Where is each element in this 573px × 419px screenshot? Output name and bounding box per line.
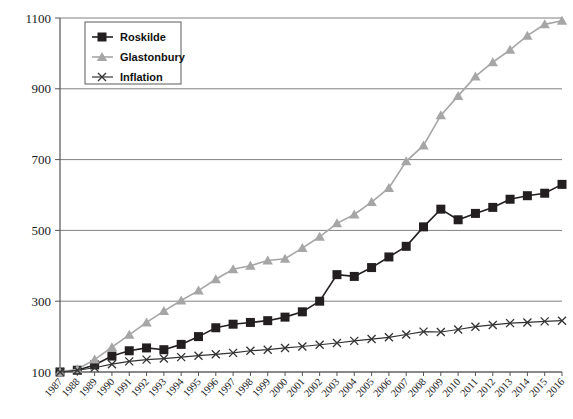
data-point [419, 222, 428, 231]
y-tick-label: 900 [32, 81, 52, 96]
chart-legend: RoskildeGlastonburyInflation [85, 22, 186, 84]
data-point [349, 209, 359, 218]
data-point [107, 352, 116, 361]
series-line-roskilde [60, 184, 562, 372]
x-tick-label: 1993 [146, 376, 168, 399]
x-tick-label: 2012 [475, 376, 497, 399]
x-tick-label: 2004 [337, 375, 360, 399]
data-point [384, 183, 394, 192]
data-point [177, 340, 186, 349]
x-tick-label: 2009 [423, 376, 445, 399]
x-tick-label: 2016 [544, 376, 566, 399]
data-point [193, 286, 203, 295]
data-point [315, 297, 324, 306]
x-tick-label: 2002 [302, 376, 324, 399]
data-point [488, 57, 498, 66]
data-point [159, 306, 169, 315]
data-point [540, 189, 549, 198]
data-point [124, 330, 134, 339]
data-point [263, 316, 272, 325]
legend-label-roskilde: Roskilde [120, 31, 166, 43]
x-tick-label: 2010 [440, 376, 462, 399]
data-point [211, 323, 220, 332]
data-point [194, 332, 203, 341]
data-point [229, 320, 238, 329]
x-tick-label: 2011 [458, 376, 480, 399]
data-point [159, 345, 168, 354]
y-tick-label: 100 [32, 365, 52, 380]
data-point [402, 242, 411, 251]
y-axis: 1003005007009001100 [25, 11, 60, 380]
x-tick-label: 2013 [492, 376, 514, 399]
x-tick-label: 1997 [215, 376, 237, 399]
x-tick-label: 2015 [527, 376, 549, 399]
data-point [523, 191, 532, 200]
legend-label-glastonbury: Glastonbury [120, 51, 186, 63]
data-point [211, 274, 221, 283]
data-point [418, 140, 428, 149]
data-point [141, 317, 151, 326]
data-point [298, 307, 307, 316]
data-point [558, 180, 567, 189]
x-tick-label: 1995 [181, 376, 203, 399]
data-point [107, 342, 117, 351]
x-tick-label: 2006 [371, 376, 393, 399]
x-tick-label: 1988 [60, 376, 82, 399]
data-point [297, 243, 307, 252]
x-tick-label: 2008 [406, 376, 428, 399]
x-tick-label: 2003 [319, 376, 341, 399]
x-tick-label: 2014 [510, 375, 533, 399]
x-tick-label: 1999 [250, 376, 272, 399]
y-tick-label: 300 [32, 294, 52, 309]
x-tick-label: 1996 [198, 376, 220, 399]
data-point [506, 195, 515, 204]
data-point [488, 203, 497, 212]
y-tick-label: 700 [32, 152, 52, 167]
line-chart: 1003005007009001100 19871988198919901991… [0, 0, 573, 419]
data-point [367, 263, 376, 272]
x-tick-label: 1989 [77, 376, 99, 399]
data-point [454, 215, 463, 224]
x-tick-label: 2007 [388, 376, 410, 399]
x-tick-label: 1990 [94, 376, 116, 399]
chart-container: 1003005007009001100 19871988198919901991… [0, 0, 573, 419]
data-point [557, 16, 567, 25]
x-tick-label: 1998 [233, 376, 255, 399]
data-point [89, 355, 99, 364]
legend-square-icon [98, 33, 107, 42]
data-point [471, 209, 480, 218]
series-line-inflation [60, 321, 562, 372]
data-point [522, 31, 532, 40]
y-tick-label: 1100 [25, 11, 51, 26]
data-point [142, 343, 151, 352]
x-tick-label: 1992 [129, 376, 151, 399]
data-point [436, 205, 445, 214]
data-point [125, 346, 134, 355]
data-point [246, 318, 255, 327]
x-axis: 1987198819891990199119921993199419951996… [42, 372, 566, 399]
y-tick-label: 500 [32, 223, 52, 238]
data-point [332, 218, 342, 227]
x-tick-label: 1991 [112, 376, 134, 399]
legend-label-inflation: Inflation [120, 71, 163, 83]
data-point [280, 254, 290, 263]
x-tick-label: 1994 [163, 375, 186, 399]
x-tick-label: 2001 [285, 376, 307, 399]
data-point [176, 295, 186, 304]
data-point [350, 272, 359, 281]
data-point [332, 270, 341, 279]
x-tick-label: 2000 [267, 376, 289, 399]
data-point [384, 252, 393, 261]
x-tick-label: 2005 [354, 376, 376, 399]
data-point [281, 313, 290, 322]
